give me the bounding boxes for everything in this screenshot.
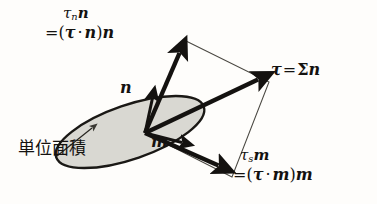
label-n-unit-vector: n <box>120 80 132 97</box>
label-tau-s-m: τsm <box>240 148 269 165</box>
equals-sign-shear: = <box>233 165 246 184</box>
vector-m: m <box>253 146 269 164</box>
vector-tau-shear: τ <box>253 165 264 184</box>
vector-tau: τ <box>65 23 76 42</box>
vector-n-sigma: n <box>308 60 320 79</box>
label-tau-n-n-expression: =(τ·n)n <box>45 25 114 42</box>
label-tau-equals-sigma-n: τ=Σn <box>271 62 320 79</box>
dot-product-operator-shear: · <box>263 165 272 184</box>
vector-n-inner: n <box>85 23 97 42</box>
equals-sign: = <box>45 23 58 42</box>
label-m-unit-vector: m <box>151 134 168 151</box>
vector-m-inner: m <box>273 165 290 184</box>
label-tau-n-n: τnn <box>63 6 89 23</box>
dot-product-operator: · <box>75 23 84 42</box>
vector-m-outer: m <box>296 165 313 184</box>
equals-sign-main: = <box>282 60 297 79</box>
vector-n-outer: n <box>102 23 114 42</box>
vector-n: n <box>78 4 89 22</box>
label-unit-area: 単位面積 <box>18 140 86 158</box>
tau-symbol-main: τ <box>271 60 282 79</box>
sigma-symbol: Σ <box>297 60 308 79</box>
label-tau-s-m-expression: =(τ·m)m <box>233 167 313 184</box>
traction-decomposition-figure: τnn =(τ·n)n n τ=Σn m τsm =(τ·m)m 単位面積 <box>0 0 377 204</box>
